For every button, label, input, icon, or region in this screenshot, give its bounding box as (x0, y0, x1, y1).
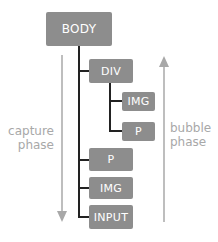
node-img: IMG (89, 177, 133, 199)
bubble-label-line2: phase (170, 135, 211, 149)
bubble-phase-label: bubble phase (170, 121, 211, 149)
capture-phase-label: capture phase (8, 124, 54, 152)
node-div-img: IMG (122, 92, 155, 111)
bubble-arrow (159, 56, 169, 222)
node-body: BODY (46, 12, 112, 46)
bubble-label-line1: bubble (170, 121, 211, 135)
capture-label-line2: phase (8, 138, 54, 152)
node-div: DIV (89, 59, 133, 83)
node-input: INPUT (89, 205, 133, 229)
capture-arrowhead-icon (57, 211, 67, 222)
capture-label-line1: capture (8, 124, 54, 138)
bubble-arrowhead-icon (159, 56, 169, 67)
node-div-p: P (122, 122, 155, 141)
capture-arrow (57, 55, 67, 222)
node-p: P (89, 148, 133, 171)
